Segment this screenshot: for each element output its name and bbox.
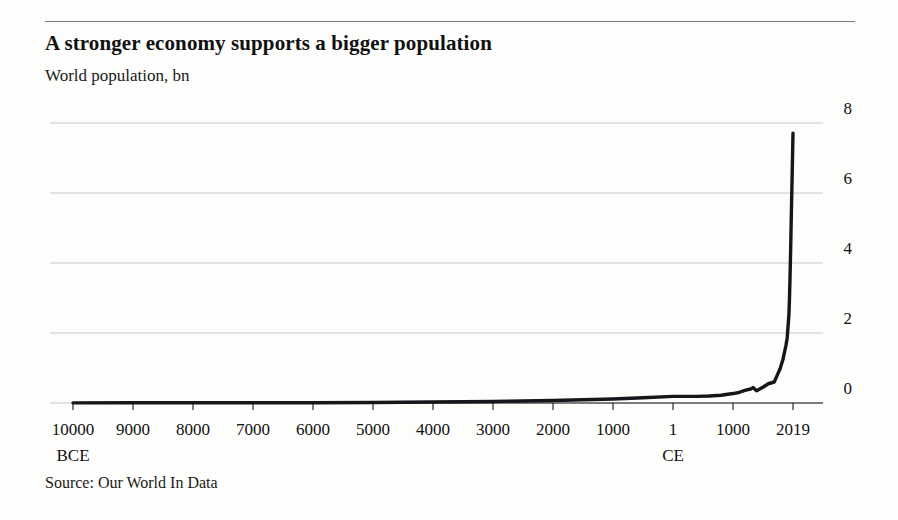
- chart-canvas: [0, 0, 898, 520]
- y-axis-label-6: 6: [812, 169, 852, 189]
- y-axis-label-2: 2: [812, 309, 852, 329]
- x-axis-era-label-BCE: BCE: [33, 446, 113, 466]
- y-axis-label-0: 0: [812, 379, 852, 399]
- x-axis-label-2019-12: 2019: [753, 420, 833, 440]
- y-axis-label-8: 8: [812, 99, 852, 119]
- population-line-series: [73, 133, 793, 403]
- x-axis-era-label-CE: CE: [633, 446, 713, 466]
- y-axis-label-4: 4: [812, 239, 852, 259]
- plot-area: 02468 10000BCE90008000700060005000400030…: [0, 0, 898, 520]
- gridlines-group: [50, 123, 823, 403]
- chart-figure: A stronger economy supports a bigger pop…: [0, 0, 898, 520]
- source-note: Source: Our World In Data: [45, 474, 218, 492]
